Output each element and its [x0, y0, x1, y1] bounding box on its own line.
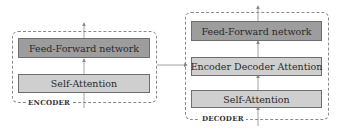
decoder-feed-forward-block: Feed-Forward network	[191, 21, 322, 41]
encoder-self-attention-label: Self-Attention	[51, 78, 117, 89]
decoder-enc-dec-attention-label: Encoder Decoder Attention	[191, 61, 323, 72]
encoder-self-attention-block: Self-Attention	[18, 74, 150, 93]
encoder-feed-forward-block: Feed-Forward network	[18, 38, 150, 58]
decoder-feed-forward-label: Feed-Forward network	[201, 26, 311, 37]
decoder-label: DECODER	[200, 114, 246, 123]
encoder-label: ENCODER	[26, 98, 72, 107]
decoder-self-attention-label: Self-Attention	[223, 94, 289, 105]
decoder-enc-dec-attention-block: Encoder Decoder Attention	[191, 57, 322, 76]
encoder-decoder-diagram: Feed-Forward network Self-Attention ENCO…	[0, 0, 342, 131]
decoder-self-attention-block: Self-Attention	[191, 90, 322, 108]
encoder-feed-forward-label: Feed-Forward network	[29, 43, 139, 54]
